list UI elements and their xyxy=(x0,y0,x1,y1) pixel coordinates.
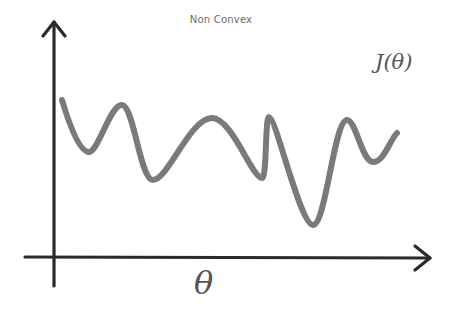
chart-title: Non Convex xyxy=(0,14,454,25)
x-axis-label: θ xyxy=(194,264,213,302)
non-convex-diagram: Non Convex J(θ) θ xyxy=(0,0,454,320)
chart-title-text: Non Convex xyxy=(190,14,252,25)
y-axis xyxy=(43,22,65,286)
y-axis-label: J(θ) xyxy=(375,50,412,74)
cost-function-curve xyxy=(62,100,397,225)
x-axis xyxy=(25,246,430,270)
diagram-svg xyxy=(0,0,454,320)
